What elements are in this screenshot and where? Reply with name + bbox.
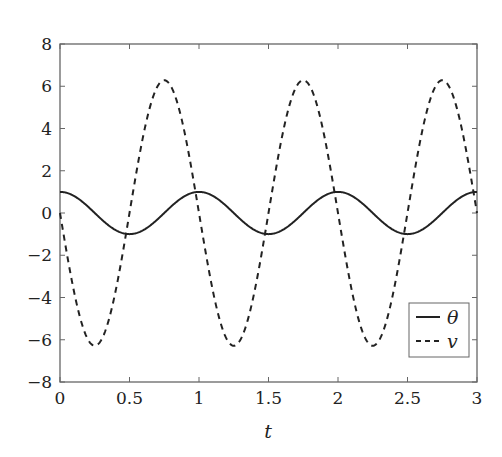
x-tick-label: 3 — [472, 388, 483, 408]
y-tick-label: −8 — [27, 372, 52, 392]
y-tick-label: 2 — [41, 161, 52, 181]
legend: θ v — [409, 303, 469, 357]
x-tick-label: 1 — [194, 388, 205, 408]
y-tick-label: −2 — [27, 245, 52, 265]
y-tick-label: 4 — [41, 119, 52, 139]
x-tick-label: 0 — [55, 388, 66, 408]
chart: 00.511.522.5386420−2−4−6−8 t θ v — [0, 0, 502, 457]
x-tick-label: 1.5 — [255, 388, 282, 408]
legend-label-theta: θ — [447, 306, 459, 328]
y-tick-label: 8 — [41, 34, 52, 54]
y-tick-label: −4 — [27, 288, 52, 308]
legend-label-v: v — [447, 330, 458, 352]
y-tick-label: 6 — [41, 76, 52, 96]
x-axis-label: t — [264, 420, 272, 442]
x-tick-label: 2 — [333, 388, 344, 408]
y-tick-label: 0 — [41, 203, 52, 223]
x-tick-label: 0.5 — [116, 388, 143, 408]
legend-box — [409, 303, 469, 357]
x-tick-label: 2.5 — [394, 388, 421, 408]
y-tick-label: −6 — [27, 330, 52, 350]
